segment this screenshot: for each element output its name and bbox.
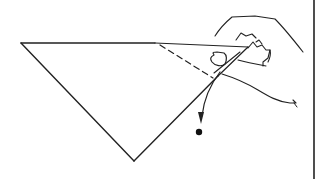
- paper-triangle: [21, 43, 248, 161]
- fold-line-dashed: [160, 45, 213, 78]
- target-dot: [196, 129, 202, 135]
- folding-diagram: Line drawing of a hand folding a corner …: [0, 0, 317, 179]
- fold-arrow: [198, 72, 220, 124]
- arrowhead-icon: [198, 112, 204, 124]
- hand-icon: [211, 16, 303, 107]
